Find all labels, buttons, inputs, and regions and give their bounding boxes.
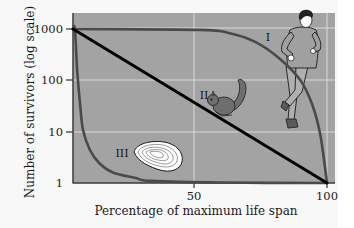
y-tick-label: 1000	[34, 22, 63, 36]
curve-label-I: I	[266, 31, 270, 44]
x-tick-label: 50	[187, 189, 202, 203]
survivorship-curve-figure: 1000 100 10 1 50 100 Percentage of maxim…	[0, 0, 354, 228]
y-tick-label: 10	[48, 125, 63, 139]
y-tick-label: 1	[56, 176, 63, 190]
y-axis-title: Number of survivors (log scale)	[23, 6, 37, 198]
x-axis-title: Percentage of maximum life span	[94, 204, 297, 218]
y-tick-label: 100	[41, 73, 63, 87]
curve-label-III: III	[115, 147, 128, 160]
x-tick-label: 100	[316, 189, 338, 203]
chart-svg: 1000 100 10 1 50 100 Percentage of maxim…	[0, 0, 354, 228]
curve-label-II: II	[200, 89, 209, 102]
